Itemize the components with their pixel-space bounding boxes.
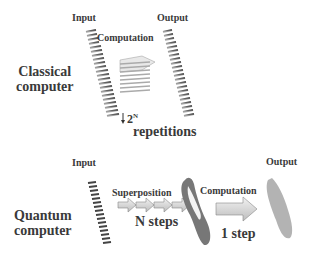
- quantum-output-state-icon: [267, 178, 292, 238]
- down-arrow-icon: [121, 113, 125, 124]
- repetitions-label: repetitions: [133, 124, 197, 139]
- classical-computation-label: Computation: [97, 32, 154, 43]
- repetitions-exponent: N: [133, 112, 138, 120]
- quantum-computation-label: Computation: [200, 185, 257, 196]
- quantum-title-line1: Quantum: [14, 208, 72, 223]
- classical-output-coil-icon: [163, 30, 194, 116]
- quantum-title-line2: computer: [14, 223, 72, 238]
- computation-steps-label: 1 step: [221, 226, 256, 241]
- quantum-input-label: Input: [72, 157, 96, 168]
- quantum-output-label: Output: [266, 156, 297, 167]
- classical-computer-title: Classical computer: [16, 64, 74, 94]
- classical-computation-arrow-stack-icon: [120, 56, 155, 92]
- quantum-computation-arrow-icon: [216, 197, 257, 221]
- superposition-arrows-icon: [118, 198, 190, 212]
- classical-title-line2: computer: [16, 79, 74, 94]
- quantum-computer-title: Quantum computer: [14, 208, 72, 238]
- superposition-steps-label: N steps: [135, 214, 178, 229]
- classical-output-label: Output: [157, 12, 188, 23]
- classical-input-label: Input: [72, 12, 96, 23]
- quantum-input-coil-icon: [88, 182, 111, 243]
- superposition-label: Superposition: [112, 187, 171, 198]
- classical-title-line1: Classical: [16, 64, 74, 79]
